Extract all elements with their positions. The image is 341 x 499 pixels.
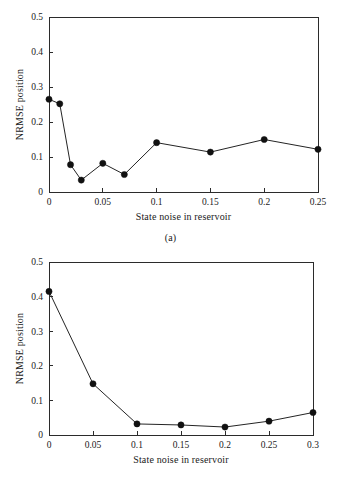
y-axis-tick-label: 0 xyxy=(38,430,43,440)
data-point-marker xyxy=(46,96,52,102)
y-axis-tick-label: 0.2 xyxy=(31,117,43,127)
x-axis-tick-label: 0.2 xyxy=(258,197,270,207)
y-axis-tick-label: 0.4 xyxy=(31,47,43,57)
chart-a-canvas: 00.10.20.30.40.500.050.10.150.20.25State… xyxy=(0,0,341,232)
y-axis-title: NRMSE position xyxy=(14,69,25,140)
x-axis-tick-label: 0.1 xyxy=(151,197,163,207)
data-point-marker xyxy=(266,418,272,424)
x-axis-tick-label: 0 xyxy=(47,440,52,450)
figure-a-caption: (a) xyxy=(0,232,341,243)
y-axis-tick-label: 0.3 xyxy=(31,82,43,92)
data-point-marker xyxy=(67,162,73,168)
series-line xyxy=(49,99,318,180)
y-axis-tick-label: 0.5 xyxy=(31,12,43,22)
data-point-marker xyxy=(78,177,84,183)
x-axis-tick-label: 0.15 xyxy=(202,197,219,207)
x-axis-tick-label: 0.2 xyxy=(219,440,231,450)
x-axis-tick-label: 0.25 xyxy=(261,440,278,450)
y-axis-tick-label: 0.2 xyxy=(31,361,43,371)
x-axis-tick-label: 0.25 xyxy=(310,197,327,207)
x-axis-tick-label: 0.1 xyxy=(131,440,143,450)
x-axis-title: State noise in reservoir xyxy=(136,211,232,222)
series-line xyxy=(49,291,313,427)
figure-page: 00.10.20.30.40.500.050.10.150.20.25State… xyxy=(0,0,341,499)
y-axis-title: NRMSE position xyxy=(14,313,25,384)
x-axis-title: State noise in reservoir xyxy=(133,454,229,465)
x-axis-tick-label: 0 xyxy=(47,197,52,207)
data-point-marker xyxy=(121,171,127,177)
data-point-marker xyxy=(310,409,316,415)
data-point-marker xyxy=(100,160,106,166)
y-axis-tick-label: 0 xyxy=(38,187,43,197)
data-point-marker xyxy=(222,424,228,430)
data-point-marker xyxy=(90,381,96,387)
data-point-marker xyxy=(207,149,213,155)
y-axis-tick-label: 0.3 xyxy=(31,327,43,337)
data-point-marker xyxy=(315,146,321,152)
figure-a: 00.10.20.30.40.500.050.10.150.20.25State… xyxy=(0,0,341,252)
x-axis-tick-label: 0.05 xyxy=(85,440,102,450)
data-point-marker xyxy=(46,288,52,294)
data-point-marker xyxy=(178,422,184,428)
plot-frame xyxy=(49,17,318,192)
data-point-marker xyxy=(154,140,160,146)
data-point-marker xyxy=(134,421,140,427)
data-point-marker xyxy=(261,136,267,142)
y-axis-tick-label: 0.1 xyxy=(31,396,43,406)
figure-b: 00.10.20.30.40.500.050.10.150.20.250.3St… xyxy=(0,252,341,499)
x-axis-tick-label: 0.15 xyxy=(173,440,190,450)
x-axis-tick-label: 0.3 xyxy=(307,440,319,450)
y-axis-tick-label: 0.4 xyxy=(31,292,43,302)
plot-frame xyxy=(49,262,313,435)
x-axis-tick-label: 0.05 xyxy=(94,197,111,207)
chart-b-canvas: 00.10.20.30.40.500.050.10.150.20.250.3St… xyxy=(0,252,341,470)
y-axis-tick-label: 0.5 xyxy=(31,257,43,267)
data-point-marker xyxy=(57,101,63,107)
y-axis-tick-label: 0.1 xyxy=(31,152,43,162)
